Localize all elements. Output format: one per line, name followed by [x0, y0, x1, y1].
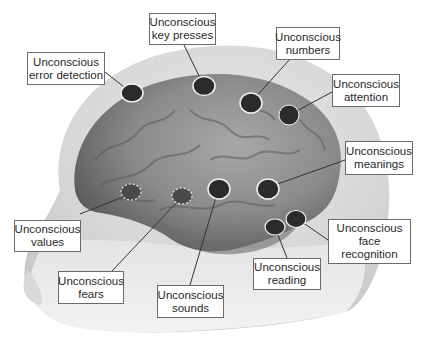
marker-values	[121, 184, 141, 200]
label-line: Unconscious	[58, 275, 124, 288]
label-line: face	[359, 235, 381, 248]
label-meanings: Unconscious meanings	[345, 141, 413, 175]
marker-face-recognition	[286, 211, 306, 228]
marker-error-detection	[121, 84, 143, 102]
label-line: numbers	[286, 44, 331, 57]
label-line: Unconscious	[158, 289, 224, 302]
label-line: meanings	[354, 158, 404, 171]
label-line: Unconscious	[150, 16, 216, 29]
label-reading: Unconscious reading	[253, 258, 321, 290]
marker-attention	[279, 105, 299, 125]
marker-sounds	[208, 179, 230, 199]
label-line: Unconscious	[254, 261, 320, 274]
label-values: Unconscious values	[14, 220, 81, 252]
label-line: Unconscious	[337, 222, 403, 235]
marker-meanings	[257, 179, 279, 199]
label-line: fears	[78, 288, 104, 301]
marker-key-presses	[193, 77, 215, 96]
label-line: Unconscious	[346, 145, 412, 158]
marker-reading	[265, 219, 285, 235]
label-line: values	[31, 236, 64, 249]
label-fears: Unconscious fears	[58, 271, 124, 304]
label-sounds: Unconscious sounds	[157, 285, 224, 318]
label-face-recognition: Unconscious face recognition	[328, 219, 411, 264]
label-error-detection: Unconscious error detection	[27, 52, 105, 85]
marker-fears	[172, 188, 192, 204]
label-line: Unconscious	[275, 31, 341, 44]
label-line: recognition	[341, 248, 397, 261]
label-line: attention	[344, 91, 388, 104]
marker-numbers	[240, 93, 262, 113]
label-line: reading	[268, 274, 306, 287]
label-line: Unconscious	[15, 223, 81, 236]
label-key-presses: Unconscious key presses	[149, 13, 216, 45]
label-line: error detection	[29, 69, 103, 82]
label-numbers: Unconscious numbers	[276, 27, 340, 60]
label-line: Unconscious	[333, 78, 399, 91]
label-line: sounds	[172, 302, 209, 315]
label-attention: Unconscious attention	[332, 74, 400, 107]
label-line: key presses	[152, 29, 213, 42]
label-line: Unconscious	[33, 56, 99, 69]
brain-diagram: Unconscious error detection Unconscious …	[0, 0, 426, 356]
